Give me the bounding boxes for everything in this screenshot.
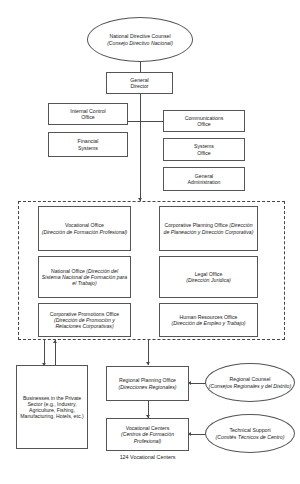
node-label-financial-systems: Financial Systems <box>76 138 101 150</box>
node-label-national-office: National Office (Dirección del Sistema N… <box>39 268 130 286</box>
node-label-technical-support: Technical Support(Comités Técnicos de Ce… <box>214 427 287 439</box>
node-label-businesses-private-sector: Businesses in the Private Sector (e.g., … <box>17 395 87 420</box>
node-label-general-director: General Director <box>128 77 150 89</box>
node-financial-systems[interactable]: Financial Systems <box>48 132 128 157</box>
arrow-director-to-group <box>138 198 142 201</box>
node-label-vocational-centers: Vocational Centers(Centros de Formación … <box>107 425 188 443</box>
node-general-administration[interactable]: General Administration <box>163 167 245 191</box>
node-technical-support[interactable]: Technical Support(Comités Técnicos de Ce… <box>205 414 295 453</box>
node-label-regional-planning-office: Regional Planning Office (Direcciones Re… <box>107 377 188 389</box>
connector-director-spine <box>140 94 141 201</box>
node-internal-control-office[interactable]: Internal Control Office <box>48 103 128 125</box>
node-label-corporative-planning-office: Corporative Planning Office (Dirección d… <box>160 222 257 234</box>
node-human-resources-office[interactable]: Human Resources Office(Dirección de Empl… <box>159 303 258 337</box>
node-regional-counsel[interactable]: Regional Counsel(Consejos Regionales y d… <box>205 363 295 402</box>
node-legal-office[interactable]: Legal Office(Dirección Jurídica) <box>159 256 258 298</box>
arrow-support-to-vocational-centers <box>188 432 191 436</box>
node-businesses-private-sector[interactable]: Businesses in the Private Sector (e.g., … <box>16 365 88 449</box>
arrow-businesses-to-group <box>53 340 57 343</box>
node-label-internal-control-office: Internal Control Office <box>68 108 107 120</box>
node-label-vocational-office: Vocational Office(Dirección de Formación… <box>40 222 130 234</box>
arrow-regional-to-vocational-centers <box>146 415 150 418</box>
connector-businesses-to-group <box>55 340 56 365</box>
node-label-corporative-promotions-office: Corporative Promotions Office (Dirección… <box>39 311 130 329</box>
node-label-national-directive-counsel: National Directive Counsel(Consejo Direc… <box>105 33 175 45</box>
connector-group-to-businesses <box>44 340 45 365</box>
node-national-directive-counsel[interactable]: National Directive Counsel(Consejo Direc… <box>87 17 193 62</box>
node-communications-office[interactable]: Communications Office <box>163 110 245 132</box>
node-national-office[interactable]: National Office (Dirección del Sistema N… <box>38 256 131 298</box>
node-general-director[interactable]: General Director <box>106 72 173 94</box>
arrow-group-to-regional-planning <box>146 362 150 365</box>
node-label-human-resources-office: Human Resources Office(Dirección de Empl… <box>170 314 248 326</box>
node-label-legal-office: Legal Office(Dirección Jurídica) <box>184 271 233 283</box>
node-label-general-administration: General Administration <box>186 173 223 185</box>
node-label-regional-counsel: Regional Counsel(Consejos Regionales y d… <box>207 376 293 388</box>
connector-counsel-to-director <box>140 62 141 72</box>
org-chart-canvas: National Directive Counsel(Consejo Direc… <box>0 0 300 484</box>
node-vocational-office[interactable]: Vocational Office(Dirección de Formación… <box>38 206 131 251</box>
arrow-group-to-businesses <box>42 363 46 366</box>
node-vocational-centers[interactable]: Vocational Centers(Centros de Formación … <box>106 418 189 451</box>
node-corporative-promotions-office[interactable]: Corporative Promotions Office (Dirección… <box>38 303 131 337</box>
node-systems-office[interactable]: Systems Office <box>163 138 245 161</box>
node-regional-planning-office[interactable]: Regional Planning Office (Direcciones Re… <box>106 366 189 401</box>
vocational-centers-count-caption: 124 Vocational Centers <box>106 454 189 460</box>
node-label-communications-office: Communications Office <box>183 115 226 127</box>
arrow-counsel-to-regional-planning <box>188 381 191 385</box>
node-corporative-planning-office[interactable]: Corporative Planning Office (Dirección d… <box>159 206 258 251</box>
node-label-systems-office: Systems Office <box>192 143 216 155</box>
